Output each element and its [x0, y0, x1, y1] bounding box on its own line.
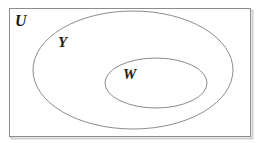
universe-label: U	[15, 13, 27, 29]
venn-diagram-canvas: U Y W	[0, 0, 259, 143]
set-y-label: Y	[58, 35, 67, 50]
set-w-label: W	[123, 67, 136, 82]
